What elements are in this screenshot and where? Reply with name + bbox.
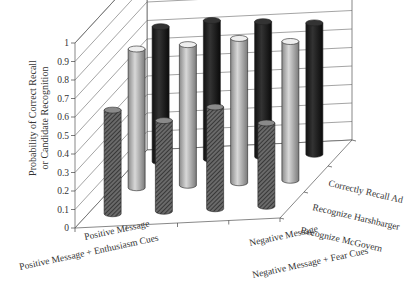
- y-axis-title-line2: or Candidate Recognition: [39, 67, 50, 170]
- x-axis-labels: Positive MessagePositive Message + Enthu…: [18, 218, 369, 280]
- bar-recognize-harshbarger: [231, 35, 248, 185]
- y-axis-title-line1: Probability of Correct Recall: [27, 60, 38, 176]
- bar-recognize-harshbarger: [128, 46, 145, 191]
- y-tick-label: 0.7: [57, 94, 69, 104]
- series-label: Recognize McGovern: [300, 225, 384, 254]
- y-tick-label: 0.9: [57, 57, 69, 67]
- y-tick-label: 0.3: [57, 168, 69, 178]
- bar-recognize-mcgovern: [207, 104, 224, 212]
- y-tick-label: 0.2: [57, 186, 69, 196]
- y-tick-label: 0.4: [57, 149, 69, 159]
- series-labels: Recognize McGovernRecognize HarshbargerC…: [300, 178, 405, 254]
- y-axis-title: Probability of Correct Recallor Candidat…: [27, 60, 50, 176]
- chart: 00.10.20.30.40.50.60.70.80.91 Positive M…: [0, 0, 416, 293]
- x-category-label: Negative Message + Fear Cues: [251, 246, 369, 280]
- bar-correctly-recall-ad: [306, 20, 323, 157]
- bar-recognize-mcgovern: [104, 107, 121, 217]
- bar-recognize-mcgovern: [155, 118, 172, 215]
- y-tick-label: 0.8: [57, 75, 69, 85]
- bar-recognize-harshbarger: [179, 42, 196, 189]
- bar-recognize-harshbarger: [282, 39, 299, 184]
- series-label: Correctly Recall Ad: [328, 178, 405, 205]
- y-tick-label: 0.5: [57, 131, 69, 141]
- y-tick-label: 1: [64, 38, 69, 48]
- y-tick-label: 0.6: [57, 112, 69, 122]
- bar-recognize-mcgovern: [258, 120, 275, 209]
- y-tick-label: 0.1: [57, 205, 69, 215]
- series-label: Recognize Harshbarger: [312, 202, 402, 232]
- y-tick-label: 0: [64, 223, 69, 233]
